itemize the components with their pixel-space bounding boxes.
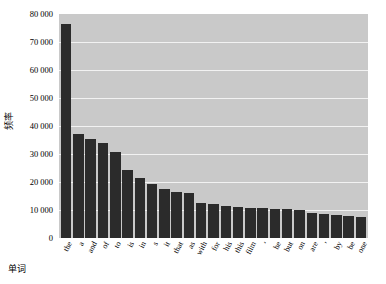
y-axis-tick-label: 10 000 bbox=[30, 205, 53, 215]
x-axis-tick-label: film bbox=[244, 240, 258, 256]
y-axis-tick-labels: 010 00020 00030 00040 00050 00060 00070 … bbox=[14, 14, 56, 238]
bar bbox=[233, 207, 244, 238]
x-axis-title: 单词 bbox=[0, 262, 386, 275]
x-axis-tick-label: one bbox=[355, 240, 368, 254]
x-axis-tick-label: that bbox=[171, 240, 185, 255]
y-axis-tick-label: 50 000 bbox=[30, 93, 53, 103]
y-axis-tick-label: 20 000 bbox=[30, 177, 53, 187]
y-axis-tick-label: 0 bbox=[49, 233, 53, 243]
bar bbox=[257, 208, 268, 238]
bar bbox=[208, 204, 219, 238]
y-axis-tick-label: 30 000 bbox=[30, 149, 53, 159]
y-axis-tick-label: 80 000 bbox=[30, 9, 53, 19]
bar-chart-figure: 频率 010 00020 00030 00040 00050 00060 000… bbox=[0, 0, 386, 284]
y-axis-title-text: 频率 bbox=[2, 111, 15, 129]
y-axis-tick-label: 40 000 bbox=[30, 121, 53, 131]
bar bbox=[331, 215, 342, 238]
bar bbox=[135, 178, 146, 238]
bar bbox=[85, 139, 96, 238]
y-axis-tick-label: 70 000 bbox=[30, 37, 53, 47]
bar bbox=[171, 192, 182, 238]
bar bbox=[184, 193, 195, 238]
bar bbox=[196, 203, 207, 238]
bar bbox=[61, 24, 72, 238]
bar bbox=[319, 214, 330, 238]
plot-area bbox=[59, 14, 368, 238]
bar bbox=[73, 134, 84, 238]
bar bbox=[245, 208, 256, 238]
x-axis-tick-label: with bbox=[195, 240, 210, 257]
bar bbox=[294, 210, 305, 238]
bar bbox=[307, 213, 318, 238]
x-axis-tick-label: and bbox=[85, 240, 98, 254]
y-axis-tick-label: 60 000 bbox=[30, 65, 53, 75]
bar bbox=[356, 217, 367, 238]
bar-series bbox=[59, 14, 368, 238]
bar bbox=[343, 216, 354, 238]
bar bbox=[147, 184, 158, 238]
bar bbox=[221, 206, 232, 238]
bar bbox=[270, 209, 281, 238]
bar bbox=[159, 189, 170, 238]
bar bbox=[98, 143, 109, 238]
x-axis-tick-label: but bbox=[282, 240, 295, 253]
bar bbox=[110, 152, 121, 238]
bar bbox=[282, 209, 293, 238]
bar bbox=[122, 170, 133, 238]
x-axis-title-text: 单词 bbox=[8, 264, 26, 274]
